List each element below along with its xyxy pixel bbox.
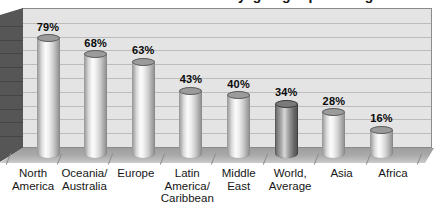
cylinder-bar-europe (132, 58, 155, 158)
data-label-africa: 16% (359, 112, 405, 124)
cylinder-top-europe (132, 58, 155, 66)
cylinder-bar-middle-east (227, 91, 250, 158)
category-label-line: Australia (51, 180, 117, 193)
cylinder-body-africa (370, 130, 393, 158)
cylinder-bar-africa (370, 126, 393, 158)
side-wall-gridline (0, 136, 23, 137)
data-label-latin-america-caribbean: 43% (168, 73, 214, 85)
side-wall-gridline (0, 26, 23, 27)
data-label-world-average: 34% (263, 86, 309, 98)
gridline-90pct (23, 23, 431, 24)
cylinder-body-world-average (275, 104, 298, 158)
category-label-line: Caribbean (154, 192, 220, 202)
category-label-africa: Africa (360, 167, 426, 180)
cylinder-bar-world-average (275, 100, 298, 158)
cylinder-bar-latin-america-caribbean (179, 87, 202, 158)
clipped-title: by geographic region (228, 0, 435, 5)
data-label-middle-east: 40% (216, 78, 262, 90)
side-wall-gridline (0, 109, 23, 110)
side-wall-gridline (0, 122, 23, 123)
cylinder-body-latin-america-caribbean (179, 91, 202, 158)
side-wall-gridline (0, 40, 23, 41)
chart-canvas: by geographic region 79%68%63%43%40%34%2… (0, 0, 435, 202)
plot-side-wall (0, 8, 23, 162)
side-wall-gridline (0, 81, 23, 82)
cylinder-body-asia (322, 112, 345, 158)
data-label-europe: 63% (120, 44, 166, 56)
cylinder-top-latin-america-caribbean (179, 87, 202, 95)
category-label-line: Africa (360, 167, 426, 180)
cylinder-body-middle-east (227, 95, 250, 158)
cylinder-body-north-america (37, 38, 60, 158)
data-label-north-america: 79% (25, 21, 71, 33)
cylinder-bar-north-america (37, 34, 60, 158)
cylinder-body-oceania-australia (84, 54, 107, 158)
cylinder-body-europe (132, 62, 155, 158)
cylinder-top-africa (370, 126, 393, 134)
side-wall-gridline (0, 95, 23, 96)
data-label-asia: 28% (311, 95, 357, 107)
cylinder-bar-oceania-australia (84, 50, 107, 158)
data-label-oceania-australia: 68% (73, 37, 119, 49)
clipped-title-text: by geographic region (228, 0, 435, 3)
cylinder-bar-asia (322, 108, 345, 158)
side-wall-gridline (0, 53, 23, 54)
side-wall-gridline (0, 67, 23, 68)
category-label-line: Average (257, 180, 323, 193)
cylinder-top-world-average (275, 100, 298, 108)
cylinder-top-middle-east (227, 91, 250, 99)
